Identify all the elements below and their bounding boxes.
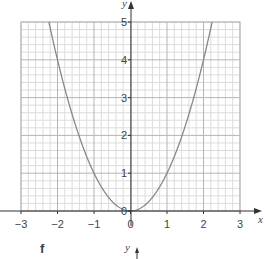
x-tick-label: −2 — [51, 218, 64, 230]
y-tick-label: 1 — [121, 167, 127, 179]
y-tick-labels: 012345 — [121, 16, 131, 217]
x-tick-label: −1 — [88, 218, 101, 230]
y-tick-label: 0 — [121, 205, 127, 217]
x-tick-label: 2 — [200, 218, 206, 230]
parabola-chart: −3−2−10123 012345 x y f y — [0, 0, 265, 259]
y-axis-label: y — [121, 0, 127, 9]
y-axis-arrow-icon — [128, 1, 134, 9]
y-tick-label: 4 — [121, 54, 127, 66]
x-tick-labels: −3−2−10123 — [15, 211, 243, 230]
x-tick-label: 0 — [127, 218, 133, 230]
panel-f-y-axis-label: y — [124, 241, 130, 253]
panel-f-label: f — [40, 241, 45, 256]
x-axis-label: x — [257, 213, 263, 225]
y-tick-label: 5 — [121, 16, 127, 28]
x-tick-label: −3 — [15, 218, 28, 230]
panel-f-y-arrow-icon — [135, 247, 139, 253]
y-tick-label: 2 — [121, 129, 127, 141]
x-tick-label: 3 — [237, 218, 243, 230]
y-tick-label: 3 — [121, 92, 127, 104]
x-tick-label: 1 — [164, 218, 170, 230]
